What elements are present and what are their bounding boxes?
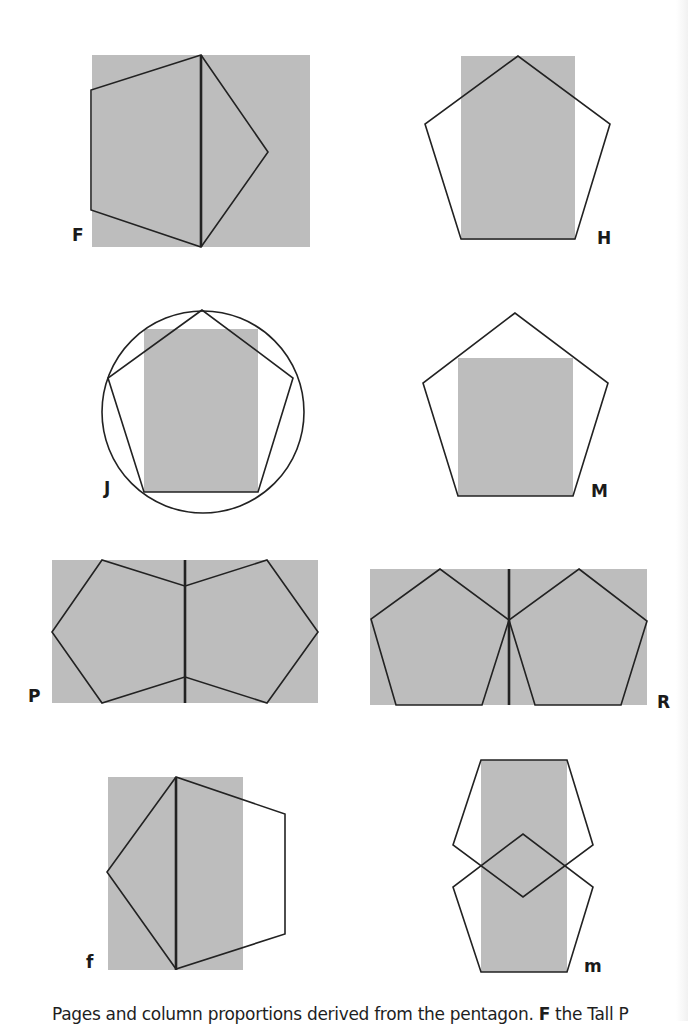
panel-j-column-rect [144, 329, 258, 492]
label-J: J [104, 480, 110, 497]
caption-key-text: the Tall P [555, 1004, 628, 1024]
label-F: F [72, 227, 84, 244]
label-m-lower: m [584, 958, 602, 975]
label-P: P [28, 688, 40, 705]
panel-m-lower-column-rect [481, 760, 567, 972]
figure-caption: Pages and column proportions derived fro… [52, 1004, 628, 1024]
label-f-lower: f [86, 954, 93, 971]
shaded-rectangles [52, 55, 647, 972]
caption-key-letter: F [539, 1004, 550, 1024]
caption-text: Pages and column proportions derived fro… [52, 1004, 534, 1024]
label-M: M [591, 483, 608, 500]
label-R: R [657, 694, 670, 711]
panel-h-column-rect [461, 56, 575, 240]
label-H: H [597, 230, 611, 247]
panel-m-column-rect [458, 358, 573, 496]
